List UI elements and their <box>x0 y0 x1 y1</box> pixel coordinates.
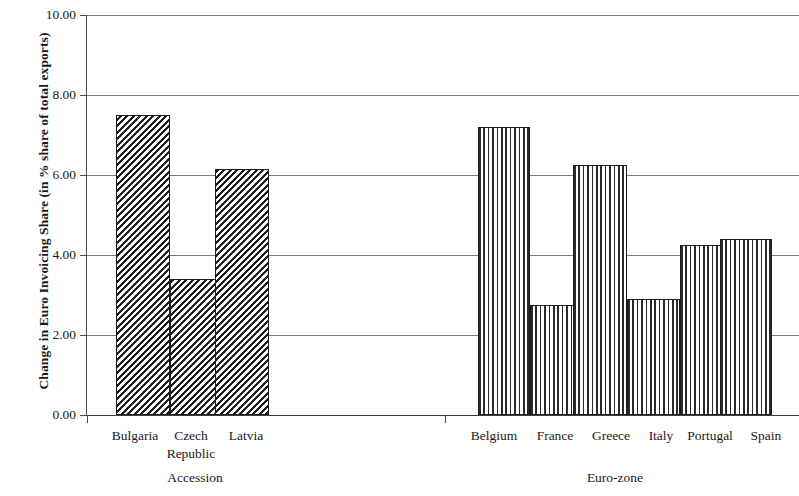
x-tick-mark-origin <box>87 416 88 423</box>
x-label-latvia: Latvia <box>216 428 276 443</box>
bar-bulgaria <box>116 115 170 415</box>
x-axis-line <box>86 415 799 416</box>
gridline-8 <box>87 95 799 96</box>
plot-area <box>87 15 799 415</box>
bar-greece <box>573 165 627 415</box>
x-label-spain: Spain <box>740 428 792 443</box>
x-label-belgium: Belgium <box>460 428 528 443</box>
x-label-france: France <box>527 428 583 443</box>
gridline-10 <box>87 15 799 16</box>
x-label-czech-line2: Republic <box>147 446 235 461</box>
x-tick-mark-gap <box>445 416 446 423</box>
y-tick-label-0: 0.00 <box>16 408 76 422</box>
y-tick-label-2: 2.00 <box>16 328 76 342</box>
bar-italy <box>627 299 680 415</box>
y-tick-label-10: 10.00 <box>16 8 76 22</box>
group-label-accession: Accession <box>150 470 240 486</box>
bar-spain <box>720 239 772 415</box>
y-tick-label-4: 4.00 <box>16 248 76 262</box>
x-label-czech-line1: Czech <box>163 428 219 443</box>
x-label-greece: Greece <box>581 428 641 443</box>
y-axis-title: Change in Euro Invoicing Share (in % sha… <box>36 1 52 421</box>
y-tick-label-6: 6.00 <box>16 168 76 182</box>
bar-belgium <box>478 127 530 415</box>
y-tick-label-8: 8.00 <box>16 88 76 102</box>
bar-chart-figure: Change in Euro Invoicing Share (in % sha… <box>0 0 799 496</box>
bar-latvia <box>215 169 269 415</box>
group-label-eurozone: Euro-zone <box>570 470 660 486</box>
gridline-6 <box>87 175 799 176</box>
x-label-portugal: Portugal <box>677 428 743 443</box>
